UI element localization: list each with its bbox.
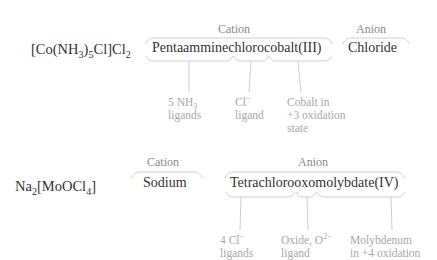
formula-cobalt-complex: [Co(NH3)5Cl]Cl2 (31, 41, 131, 58)
anion-name-2: Tetrachlorooxomolybdate(IV) (230, 175, 399, 191)
anion-name: Chloride (348, 40, 397, 56)
group-label-cation: Cation (218, 22, 250, 37)
note-molybdenum-oxidation: Molybdenum in +4 oxidation (350, 234, 420, 260)
group-label-anion: Anion (356, 22, 386, 37)
cation-name: Pentaamminechlorocobalt(III) (152, 40, 321, 56)
note-ammine-ligands: 5 NH3 ligands (168, 96, 201, 122)
note-oxide-ligand: Oxide, O2− ligand (281, 234, 332, 260)
group-label-cation-2: Cation (147, 155, 179, 170)
note-chloro-ligand: Cl− ligand (235, 96, 264, 122)
note-chloro-ligands: 4 Cl− ligands (220, 234, 253, 260)
group-label-anion-2: Anion (298, 155, 328, 170)
bracket-lines (0, 0, 437, 260)
note-cobalt-oxidation: Cobalt in +3 oxidation state (287, 96, 346, 135)
cation-name-2: Sodium (143, 175, 187, 191)
formula-molybdenum-complex: Na2[MoOCl4] (15, 178, 96, 195)
